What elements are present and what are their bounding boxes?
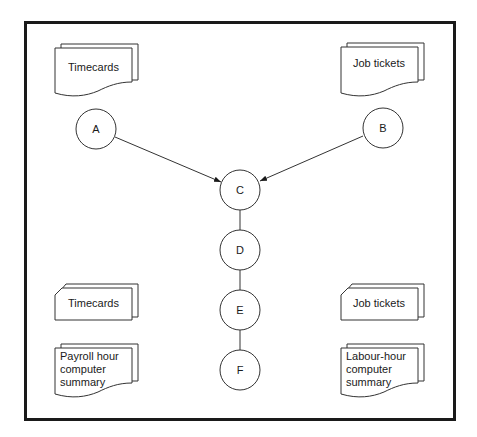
report-label-line-3: summary: [346, 376, 392, 388]
node-label: F: [237, 364, 244, 376]
card-label: Timecards: [68, 297, 119, 309]
flowchart-diagram: Timecards Job tickets A B C D E F: [0, 0, 477, 437]
node-label: E: [236, 304, 243, 316]
card-label: Job tickets: [353, 297, 405, 309]
process-node-f: F: [220, 350, 260, 390]
process-node-b: B: [363, 108, 403, 148]
node-label: D: [236, 244, 244, 256]
process-node-c: C: [220, 170, 260, 210]
report-label-line-2: computer: [60, 363, 106, 375]
report-label-line-2: computer: [346, 363, 392, 375]
card-file-timecards: Timecards: [55, 284, 138, 320]
report-label-line-1: Payroll hour: [60, 350, 119, 362]
document-label: Job tickets: [353, 57, 405, 69]
report-label-line-3: summary: [60, 376, 106, 388]
node-label: A: [92, 123, 100, 135]
node-label: B: [379, 122, 386, 134]
process-node-a: A: [76, 109, 116, 149]
report-label-line-1: Labour-hour: [346, 350, 406, 362]
document-label: Timecards: [68, 61, 119, 73]
node-label: C: [236, 184, 244, 196]
card-file-job-tickets: Job tickets: [341, 284, 424, 320]
process-node-d: D: [220, 230, 260, 270]
process-node-e: E: [220, 290, 260, 330]
